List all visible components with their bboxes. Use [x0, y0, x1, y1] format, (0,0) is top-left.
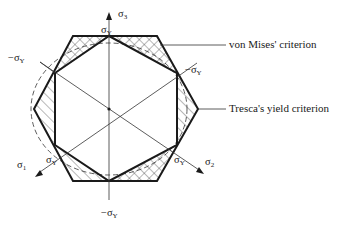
lower-left-vertex-label: σY [46, 155, 57, 167]
yield-criteria-diagram [0, 0, 344, 230]
sigma2-axis-label: σ2 [205, 157, 214, 169]
sigma1-axis-label: σ1 [17, 160, 26, 172]
upper-right-vertex-label: −σY [185, 65, 202, 77]
top-vertex-label: σY [101, 25, 112, 37]
von-mises-callout: von Mises' criterion [229, 39, 317, 50]
tresca-callout: Tresca's yield criterion [229, 103, 329, 114]
sigma3-arrow-icon [106, 12, 112, 20]
bottom-vertex-label: −σY [101, 208, 118, 220]
origin-dot [107, 107, 110, 110]
sigma3-axis-label: σ3 [118, 9, 127, 21]
lower-right-vertex-label: σY [174, 155, 185, 167]
sigma2-arrow-icon [196, 167, 204, 174]
upper-left-vertex-label: −σY [8, 53, 25, 65]
